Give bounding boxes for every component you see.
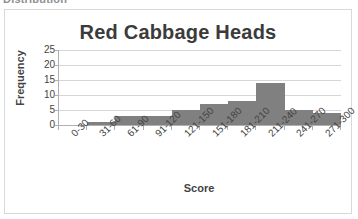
- bar-slot: [59, 50, 87, 125]
- y-tick-label: 20: [44, 60, 55, 70]
- bar-slot: [144, 50, 172, 125]
- y-tick-label: 10: [44, 90, 55, 100]
- bar-slot: [87, 50, 115, 125]
- y-axis-title: Frequency: [14, 42, 26, 114]
- x-tickmark: [58, 126, 59, 130]
- y-tick-label: 25: [44, 45, 55, 55]
- bar-slot: [115, 50, 143, 125]
- y-axis-tick-labels: 0510152025: [31, 50, 55, 125]
- chart-container: Red Cabbage Heads Frequency 0510152025 0…: [4, 9, 352, 214]
- x-axis-tick-labels: 0-3031-6061-9091-120121-150151-180181-21…: [58, 131, 340, 177]
- plot-wrapper: Frequency 0510152025 0-3031-6061-9091-12…: [5, 10, 353, 215]
- cutoff-heading-text: Distribution: [3, 0, 67, 5]
- y-tick-label: 15: [44, 75, 55, 85]
- x-axis-title: Score: [58, 182, 340, 194]
